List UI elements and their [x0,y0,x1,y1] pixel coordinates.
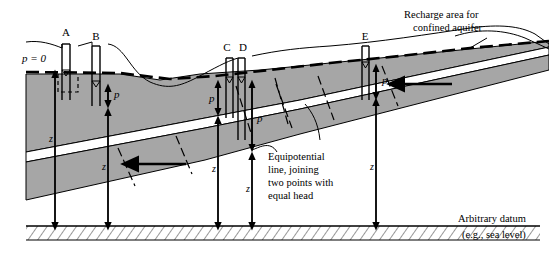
well-label-B: B [92,30,99,42]
z-label-D: z [245,183,250,194]
figure-canvas: A B C D E p = 0 p p p p z z z z z Rechar… [0,0,549,257]
z-label-A: z [48,133,53,144]
recharge-label-line2: confined aquifer [413,22,483,33]
p-label-E: p [381,74,388,86]
p-label-D: p [256,112,263,124]
equipotential-label-line4: equal head [268,190,314,201]
equipotential-label-line2: line, joining [268,164,319,175]
cross-section-svg: A B C D E p = 0 p p p p z z z z z Rechar… [0,0,549,257]
p-label-C: p [208,92,215,104]
well-label-D: D [239,41,247,53]
well-label-C: C [223,41,230,53]
equipotential-label-line3: two points with [268,177,334,188]
z-label-B: z [101,161,106,172]
equipotential-label-line1: Equipotential [268,151,325,162]
datum-label: Arbitrary datum [458,213,526,224]
p-label-B: p [113,88,120,100]
z-label-E: z [369,161,374,172]
well-label-E: E [362,30,369,42]
datum-sublabel: (e.g., sea level) [462,229,526,241]
z-label-C: z [211,163,216,174]
pressure-zero-label: p = 0 [21,52,46,64]
recharge-label-line1: Recharge area for [404,9,479,20]
well-label-A: A [62,26,70,38]
